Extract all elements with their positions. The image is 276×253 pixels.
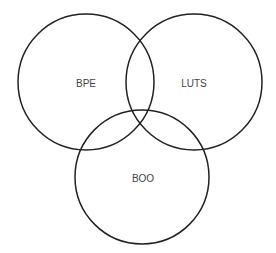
label-boo: BOO bbox=[132, 173, 154, 184]
label-luts: LUTS bbox=[181, 78, 207, 89]
set-boo: BOO bbox=[75, 110, 209, 244]
venn-diagram: BPE LUTS BOO bbox=[0, 0, 276, 253]
set-bpe: BPE bbox=[18, 14, 154, 150]
set-luts: LUTS bbox=[126, 14, 262, 150]
label-bpe: BPE bbox=[76, 78, 96, 89]
